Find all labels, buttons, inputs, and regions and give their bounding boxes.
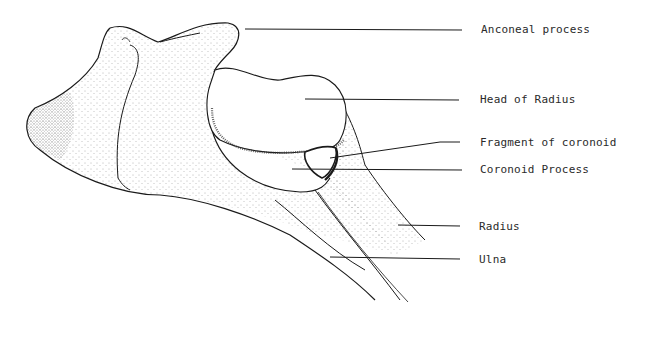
label-fragment-of-coronoid: Fragment of coronoid <box>480 137 616 149</box>
label-coronoid-process: Coronoid Process <box>480 164 589 176</box>
label-anconeal-process: Anconeal process <box>481 24 590 36</box>
leader-ulna <box>330 257 460 259</box>
leader-anconeal <box>245 29 462 30</box>
head-of-radius-shape <box>207 68 346 153</box>
label-ulna: Ulna <box>479 254 506 266</box>
label-head-of-radius: Head of Radius <box>480 94 576 106</box>
label-radius: Radius <box>479 221 520 233</box>
